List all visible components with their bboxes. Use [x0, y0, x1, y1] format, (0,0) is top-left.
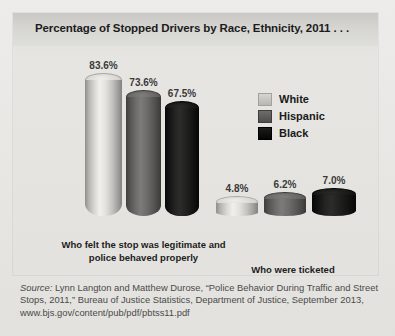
bar-value-label: 7.0%	[323, 175, 346, 186]
source-text: Lynn Langton and Matthew Durose, “Police…	[20, 282, 378, 318]
bar-white-ticketed: 4.8%	[216, 196, 258, 216]
cylinder-body	[312, 195, 356, 216]
cylinder-body	[85, 80, 122, 216]
cylinder-body	[216, 203, 258, 216]
bar-value-label: 4.8%	[226, 183, 249, 194]
legend-item-hispanic: Hispanic	[258, 108, 325, 124]
hispanic-swatch-icon	[258, 110, 272, 123]
group-label-legitimate: Who felt the stop was legitimate and pol…	[61, 239, 226, 264]
bar-hispanic-legitimate: 73.6%	[126, 90, 161, 216]
black-swatch-icon	[258, 127, 272, 140]
bar-hispanic-ticketed: 6.2%	[264, 192, 306, 216]
bar-value-label: 67.5%	[168, 88, 196, 99]
white-swatch-icon	[258, 93, 272, 106]
legend-item-white: White	[258, 91, 325, 107]
source-citation: Source: Lynn Langton and Matthew Durose,…	[20, 282, 378, 319]
group-label-ticketed: Who were ticketed	[218, 264, 368, 277]
legend: White Hispanic Black	[258, 91, 325, 142]
bar-white-legitimate: 83.6%	[85, 73, 122, 216]
cylinder-body	[126, 97, 161, 216]
bar-black-legitimate: 67.5%	[165, 101, 199, 216]
legend-label: Black	[279, 127, 308, 139]
bar-value-label: 73.6%	[129, 77, 157, 88]
plot-area: 83.6% 73.6% 67.5% 4.8% 6.2% 7.0%	[13, 46, 378, 275]
legend-label: White	[279, 93, 309, 105]
cylinder-body	[264, 199, 306, 216]
page-title: Percentage of Stopped Drivers by Race, E…	[35, 22, 349, 34]
bar-value-label: 83.6%	[89, 60, 117, 71]
legend-item-black: Black	[258, 125, 325, 141]
source-prefix: Source:	[20, 282, 52, 293]
legend-label: Hispanic	[279, 110, 325, 122]
chart-panel: Percentage of Stopped Drivers by Race, E…	[13, 13, 378, 275]
bar-black-ticketed: 7.0%	[312, 188, 356, 216]
cylinder-body	[165, 108, 199, 216]
bar-value-label: 6.2%	[274, 179, 297, 190]
